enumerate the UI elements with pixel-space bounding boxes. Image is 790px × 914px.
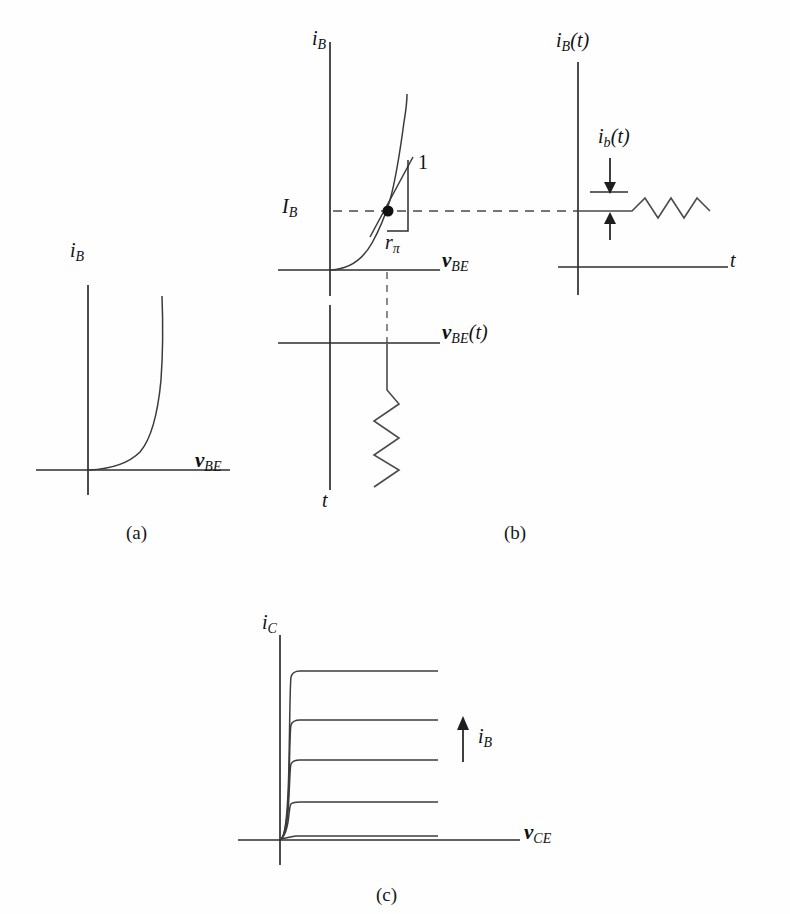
panel-b-tr-triangle-waveform	[579, 198, 710, 218]
panel-c-characteristic-curve-2	[281, 802, 438, 839]
panel-b-tr-t-axis-label: t	[730, 250, 736, 270]
panel-b-bl-x-axis-label: vBE(t)	[442, 322, 488, 346]
panel-a-y-axis-label: iB	[70, 240, 84, 264]
panel-b-topleft-graphics	[278, 42, 578, 343]
panel-c-characteristic-curve-5	[281, 671, 438, 839]
panel-b-bottomleft-graphics	[278, 305, 440, 490]
panel-b-topright-graphics	[558, 62, 728, 295]
panel-c-characteristic-curve-4	[281, 720, 438, 839]
panel-b-bl-triangle-waveform	[374, 344, 399, 487]
panel-b-tl-resistance-label: rπ	[385, 232, 400, 256]
panel-c-y-axis-label: iC	[262, 612, 277, 636]
panel-caption-c: (c)	[376, 885, 397, 904]
panel-b-tr-y-axis-label: iB(t)	[556, 30, 589, 54]
panel-b-tl-bias-label: IB	[282, 196, 297, 220]
panel-b-tl-x-axis-label: vBE	[442, 250, 469, 274]
panel-b-tr-signal-label: ib(t)	[598, 126, 630, 150]
panel-c-characteristic-curve-1	[281, 836, 438, 839]
panel-c-family-label: iB	[478, 726, 492, 750]
panel-c-x-axis-label: vCE	[524, 822, 552, 846]
panel-b-tl-y-axis-label: iB	[312, 28, 326, 52]
panel-caption-b: (b)	[504, 523, 526, 542]
panel-b-bl-t-axis-label: t	[322, 490, 328, 510]
figure-root: iB vBE iB vBE IB 1 rπ iB(t) t ib(t) vBE(…	[0, 0, 790, 914]
panel-caption-a: (a)	[126, 523, 147, 542]
panel-c-ib-arrowhead	[457, 716, 469, 730]
panel-b-tl-slope-label: 1	[418, 152, 428, 172]
panel-a-exponential-curve	[89, 296, 163, 470]
figure-graphics	[0, 0, 790, 914]
panel-b-tr-up-arrowhead	[604, 212, 616, 224]
panel-b-tl-tangent-line	[370, 157, 413, 237]
panel-a-x-axis-label: vBE	[195, 450, 222, 474]
panel-c-characteristic-curve-3	[281, 760, 438, 839]
panel-b-tl-operating-point-dot	[383, 206, 394, 217]
